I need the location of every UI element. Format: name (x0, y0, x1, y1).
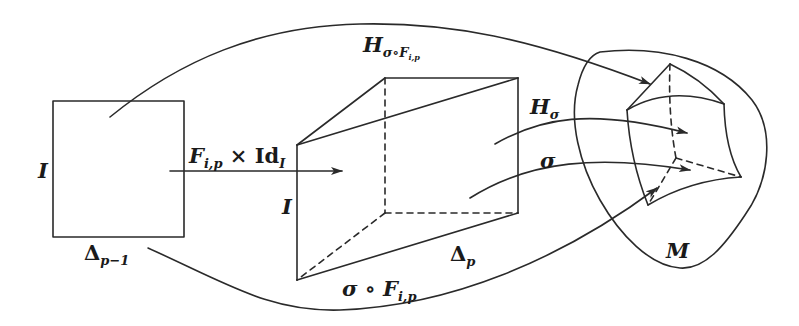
label-h-sigma-f: Hσ∘Fi,p (363, 34, 420, 56)
f-symbol: F (189, 143, 204, 168)
label-sigma-f: σ ∘ Fi,p (342, 278, 416, 299)
id-symbol: Id (255, 143, 280, 168)
label-square-i: I (38, 160, 48, 181)
curved-prism-in-m (627, 64, 741, 205)
curve-sigma (470, 162, 690, 198)
label-text: M (666, 238, 689, 263)
h-subscript: σ (550, 107, 560, 122)
manifold-m (574, 50, 766, 268)
label-f-times-id: Fi,p × IdI (189, 145, 285, 166)
sigma-f-symbol: σ ∘ F (342, 276, 398, 301)
sigma-f-subscript: i,p (398, 289, 417, 304)
id-subscript: I (279, 156, 285, 171)
label-text: I (282, 194, 292, 219)
delta-symbol: Δ (450, 241, 466, 266)
delta-subscript: p−1 (100, 253, 129, 268)
h-subsubscript: i,p (408, 51, 420, 61)
delta-symbol: Δ (84, 240, 100, 265)
label-delta-p-minus-1: Δp−1 (84, 242, 129, 263)
times-symbol: × (223, 143, 255, 168)
label-delta-p: Δp (450, 243, 475, 264)
f-subscript: i,p (204, 156, 223, 171)
h-symbol: H (530, 94, 550, 119)
label-text: σ (540, 148, 555, 173)
label-prism-i: I (282, 196, 292, 217)
prism-delta-p (297, 78, 518, 280)
label-text: I (38, 158, 48, 183)
h-symbol: H (363, 32, 383, 57)
h-subscript: σ∘F (383, 45, 409, 60)
square-delta-p-minus-1 (53, 101, 184, 237)
curve-h-sigma (495, 119, 687, 144)
label-h-sigma: Hσ (530, 96, 559, 117)
delta-subscript: p (466, 254, 475, 269)
label-sigma: σ (540, 150, 555, 171)
label-manifold-m: M (666, 240, 689, 261)
